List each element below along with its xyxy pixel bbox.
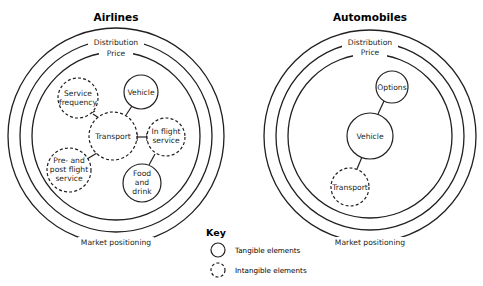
svg-text:In flight: In flight [152, 127, 181, 136]
svg-text:Service: Service [64, 89, 92, 98]
node-food-and-drink: Food and drink [123, 164, 161, 202]
node-service-frequency: Service frequency [58, 78, 98, 118]
svg-text:and: and [135, 178, 149, 187]
svg-text:Food: Food [133, 169, 151, 178]
link-transport-pre-post [87, 153, 97, 159]
svg-text:drink: drink [132, 187, 152, 196]
automobiles-price-label: Price [361, 48, 380, 57]
legend: Key Tangible elements Intangible element… [206, 227, 307, 277]
airlines-title: Airlines [94, 11, 139, 23]
node-transport: Transport [89, 112, 137, 160]
svg-text:Transport: Transport [94, 132, 131, 141]
link-vehicle-transport [357, 157, 362, 169]
svg-text:Pre- and: Pre- and [53, 156, 85, 165]
link-vehicle-options [378, 101, 384, 114]
node-vehicle: Vehicle [124, 75, 158, 109]
svg-text:service: service [152, 136, 180, 145]
airlines-diagram: Airlines Distribution Price Market posit… [8, 11, 224, 249]
diagram-canvas: Airlines Distribution Price Market posit… [0, 0, 483, 286]
intangible-key-icon [211, 263, 225, 277]
legend-title: Key [206, 227, 227, 238]
link-inflight-food [149, 154, 155, 165]
legend-intangible-label: Intangible elements [235, 266, 307, 275]
node-options: Options [376, 71, 408, 103]
svg-text:service: service [55, 174, 83, 183]
automobiles-distribution-label: Distribution [348, 38, 392, 47]
automobiles-title: Automobiles [333, 11, 407, 23]
svg-text:Vehicle: Vehicle [127, 88, 154, 97]
svg-text:Transport: Transport [331, 183, 368, 192]
legend-tangible-label: Tangible elements [234, 246, 301, 255]
automobiles-market-positioning-label: Market positioning [335, 238, 406, 247]
node-pre-post-flight-service: Pre- and post flight service [47, 148, 91, 192]
svg-text:Vehicle: Vehicle [356, 132, 383, 141]
airlines-price-label: Price [107, 49, 126, 58]
link-transport-vehicle [126, 106, 132, 115]
automobiles-diagram: Automobiles Distribution Price Market po… [264, 11, 476, 249]
node-in-flight-service: In flight service [147, 118, 185, 156]
tangible-key-icon [211, 243, 225, 257]
svg-text:Options: Options [377, 83, 406, 92]
svg-text:post flight: post flight [50, 165, 88, 174]
svg-text:frequency: frequency [59, 98, 98, 107]
node-vehicle: Vehicle [347, 113, 393, 159]
airlines-distribution-label: Distribution [94, 38, 138, 47]
airlines-market-positioning-label: Market positioning [81, 238, 152, 247]
node-transport: Transport [331, 168, 369, 206]
